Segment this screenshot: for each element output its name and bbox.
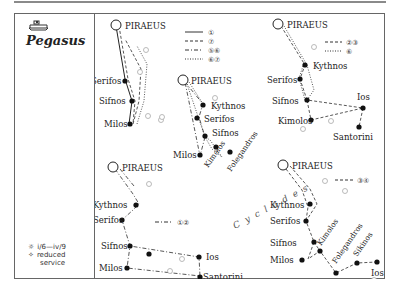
season-dates: i/6—iv/9 xyxy=(37,243,66,251)
port-label: PIRAEUS xyxy=(292,161,333,171)
port-label: Sifnos xyxy=(272,96,299,106)
port-label: Sifnos xyxy=(212,128,239,138)
port-label: Kimolos xyxy=(315,217,340,247)
port-label: Kythnos xyxy=(313,61,347,71)
port-label: Sifnos xyxy=(101,241,128,251)
port-label: Santorini xyxy=(203,272,243,279)
port-label: Kimolos xyxy=(202,139,227,169)
port-label: Serifos xyxy=(267,75,297,85)
key-label: ②③ xyxy=(346,39,358,47)
port-label: Milos xyxy=(104,119,128,129)
port-label: Sifnos xyxy=(99,96,126,106)
port-label: Kimolos xyxy=(278,116,312,126)
port-label: Sifnos xyxy=(270,238,297,248)
key-dashdot-label: ⑤⑥ xyxy=(208,47,220,55)
port-label: Ios xyxy=(357,92,370,102)
port-label: Milos xyxy=(173,150,197,160)
port-label: Serifos xyxy=(95,76,121,86)
key-label: ③④ xyxy=(357,177,369,185)
ferry-ship-icon xyxy=(27,20,49,32)
service-label: service xyxy=(28,259,66,267)
route-maps: ① ⑦ ⑤⑥ ⑥⑦ PIRAEUS Serifos Sifnos Milos P… xyxy=(95,14,385,279)
map-3: ②③ ⑥ PIRAEUS Kythnos Serifos Sifnos Ios … xyxy=(267,19,373,142)
map-1: PIRAEUS Serifos Sifnos Milos xyxy=(95,20,166,129)
port-label: PIRAEUS xyxy=(125,21,166,31)
port-label: Milos xyxy=(99,263,123,273)
ferry-info-panel xyxy=(14,13,95,279)
route-key: ① ⑦ ⑤⑥ ⑥⑦ xyxy=(185,29,220,64)
port-label: Santorini xyxy=(333,132,373,142)
diamond-sun-icon: ✧ xyxy=(28,251,34,259)
reduced-label: reduced xyxy=(37,251,66,259)
port-label: Kythnos xyxy=(95,200,127,210)
port-label: PIRAEUS xyxy=(191,76,232,86)
key-label: ⑥ xyxy=(346,48,352,56)
port-label: PIRAEUS xyxy=(122,163,163,173)
port-label: Serifos xyxy=(204,114,234,124)
key-dotted-label: ⑥⑦ xyxy=(208,56,220,64)
port-label: Serifos xyxy=(270,216,300,226)
map-4: ①② PIRAEUS Kythnos Serifos Sifnos Ios Mi… xyxy=(95,162,243,279)
key-dashed-label: ⑦ xyxy=(208,38,214,46)
port-label: Ios xyxy=(371,268,384,278)
service-legend: ☼ i/6—iv/9 ✧ reduced service xyxy=(28,243,66,267)
port-label: Milos xyxy=(270,255,294,265)
key-solid-label: ① xyxy=(208,29,214,37)
map-5: ③④ PIRAEUS Kythnos Serifos Sifnos Milos … xyxy=(270,160,384,279)
port-label: PIRAEUS xyxy=(287,20,328,30)
port-label: Serifos xyxy=(95,215,123,225)
port-label: Kythnos xyxy=(211,101,245,111)
sun-icon: ☼ xyxy=(28,243,34,251)
key-label: ①② xyxy=(177,219,189,227)
top-rule xyxy=(14,1,386,3)
map-2: PIRAEUS Kythnos Serifos Sifnos Milos Kim… xyxy=(160,75,260,173)
port-label: Ios xyxy=(206,252,219,262)
ferry-name: Pegasus xyxy=(26,33,85,48)
